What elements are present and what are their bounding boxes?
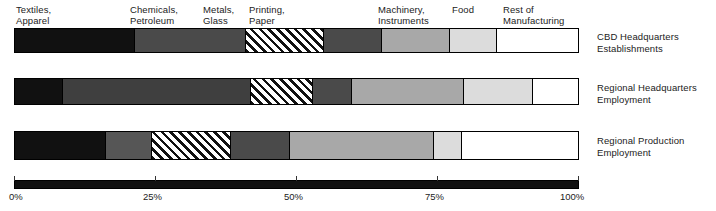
axis-tick-25 [155, 176, 156, 181]
axis-tick-label-50: 50% [284, 191, 303, 202]
category-label-food: Food [452, 4, 474, 15]
bar-series-regional-production-employment [14, 131, 579, 160]
bar-segment-chemicals-petroleum [62, 79, 250, 104]
stacked-bar-chart: Textiles, Apparel Chemicals, Petroleum M… [0, 0, 716, 211]
series-label-cbd-headquarters-establishments: CBD Headquarters Establishments [597, 31, 679, 54]
bar-segment-food [463, 79, 532, 104]
bar-segment-metals-glass [151, 132, 230, 159]
axis-scale-bar [14, 180, 579, 189]
axis-tick-label-0: 0% [9, 191, 23, 202]
category-label-textiles-apparel: Textiles, Apparel [16, 4, 51, 26]
bar-segment-textiles-apparel [15, 79, 62, 104]
bar-segment-food [449, 29, 496, 52]
bar-series-regional-headquarters-employment [14, 78, 579, 105]
bar-segment-rest-of-manufacturing [496, 29, 578, 52]
bar-segment-metals-glass [245, 29, 323, 52]
axis-tick-label-75: 75% [425, 191, 444, 202]
series-label-regional-headquarters-employment: Regional Headquarters Employment [597, 82, 697, 105]
series-label-regional-production-employment: Regional Production Employment [597, 135, 684, 158]
category-label-metals-glass: Metals, Glass [203, 4, 234, 26]
axis-tick-100 [578, 176, 579, 181]
category-label-machinery-instruments: Machinery, Instruments [378, 4, 429, 26]
bar-segment-rest-of-manufacturing [532, 79, 578, 104]
category-label-chemicals-petroleum: Chemicals, Petroleum [130, 4, 178, 26]
bar-segment-printing-paper [312, 79, 351, 104]
bar-segment-chemicals-petroleum [105, 132, 151, 159]
axis-tick-label-25: 25% [143, 191, 162, 202]
bar-segment-machinery-instruments [381, 29, 449, 52]
bar-segment-textiles-apparel [15, 29, 134, 52]
bar-segment-machinery-instruments [351, 79, 463, 104]
category-label-rest-of-manufacturing: Rest of Manufacturing [503, 4, 565, 26]
bar-segment-food [433, 132, 461, 159]
axis-tick-0 [14, 176, 15, 181]
bar-segment-rest-of-manufacturing [461, 132, 578, 159]
axis-tick-label-100: 100% [560, 191, 584, 202]
axis-tick-75 [437, 176, 438, 181]
bar-segment-textiles-apparel [15, 132, 105, 159]
bar-segment-printing-paper [230, 132, 289, 159]
bar-segment-metals-glass [250, 79, 312, 104]
bar-series-cbd-headquarters-establishments [14, 28, 579, 53]
bar-segment-printing-paper [323, 29, 381, 52]
bar-segment-chemicals-petroleum [134, 29, 245, 52]
axis-tick-50 [296, 176, 297, 181]
bar-segment-machinery-instruments [289, 132, 433, 159]
category-label-printing-paper: Printing, Paper [249, 4, 285, 26]
